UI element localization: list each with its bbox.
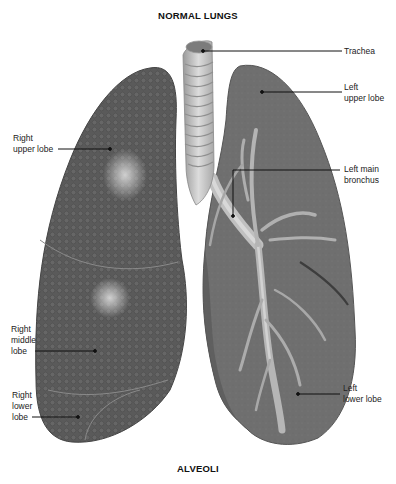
lungs-illustration: [0, 0, 396, 484]
label-right-upper-lobe: Right upper lobe: [13, 133, 53, 155]
label-left-upper-lobe: Left upper lobe: [344, 82, 384, 104]
label-right-middle-lobe: Right middle lobe: [11, 324, 36, 357]
trachea: [183, 41, 214, 205]
label-trachea: Trachea: [344, 46, 375, 57]
label-left-lower-lobe: Left lower lobe: [343, 383, 382, 405]
diagram-caption: ALVEOLI: [0, 463, 396, 474]
label-right-lower-lobe: Right lower lobe: [12, 390, 32, 423]
right-lung: [36, 68, 187, 443]
label-left-main-bronchus: Left main bronchus: [344, 164, 379, 186]
left-lung: [203, 65, 355, 444]
